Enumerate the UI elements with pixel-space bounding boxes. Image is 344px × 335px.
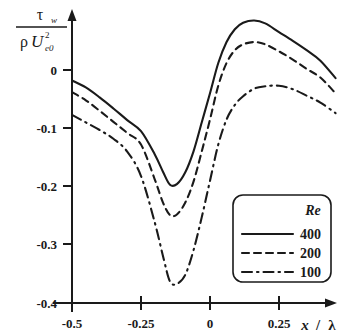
y-axis-label-denominator-subscript: e0 xyxy=(45,43,54,53)
x-ticklabel-0: -0.5 xyxy=(62,316,83,331)
y-ticklabel-4: -0.4 xyxy=(36,296,57,311)
y-ticklabel-3: -0.3 xyxy=(36,237,57,252)
x-ticklabel-3: 0.25 xyxy=(268,316,291,331)
y-ticklabel-1: -0.1 xyxy=(36,121,57,136)
x-ticklabel-2: 0 xyxy=(207,316,214,331)
y-ticklabel-2: -0.2 xyxy=(36,179,57,194)
x-axis-label-variable: x xyxy=(300,317,309,333)
y-axis-label-denominator-u: U xyxy=(31,32,45,51)
x-ticklabel-1: -0.25 xyxy=(127,316,155,331)
y-axis-label-numerator-symbol: τ xyxy=(37,6,44,23)
y-ticklabel-0: 0 xyxy=(51,63,58,78)
x-axis-ticks: -0.5 -0.25 0 0.25 xyxy=(62,294,291,331)
y-axis-ticks: 0 -0.1 -0.2 -0.3 -0.4 xyxy=(36,63,72,311)
series-line-re-200 xyxy=(72,42,336,216)
y-axis-label-numerator-subscript: w xyxy=(51,15,57,25)
legend-label-re-400: 400 xyxy=(300,227,321,242)
y-axis-label-denominator-rho: ρ xyxy=(20,33,28,51)
legend-label-re-100: 100 xyxy=(300,265,321,280)
y-axis-label-denominator-superscript: 2 xyxy=(45,30,50,40)
series-line-re-400 xyxy=(72,20,336,186)
y-axis-label: τ w ρ U 2 e0 xyxy=(16,6,67,53)
friction-coefficient-chart: τ w ρ U 2 e0 0 -0.1 -0.2 -0.3 xyxy=(0,0,344,335)
x-axis-arrow xyxy=(325,299,337,308)
x-axis-label-denominator: λ xyxy=(328,317,336,333)
chart-svg: τ w ρ U 2 e0 0 -0.1 -0.2 -0.3 xyxy=(0,0,344,335)
x-axis-label-separator: / xyxy=(315,317,321,333)
legend-label-re-200: 200 xyxy=(300,246,321,261)
legend-title: Re xyxy=(304,203,321,218)
y-axis-arrow xyxy=(68,9,77,21)
legend: Re 400 200 100 xyxy=(233,195,331,282)
x-axis-label: x / λ xyxy=(300,317,336,333)
